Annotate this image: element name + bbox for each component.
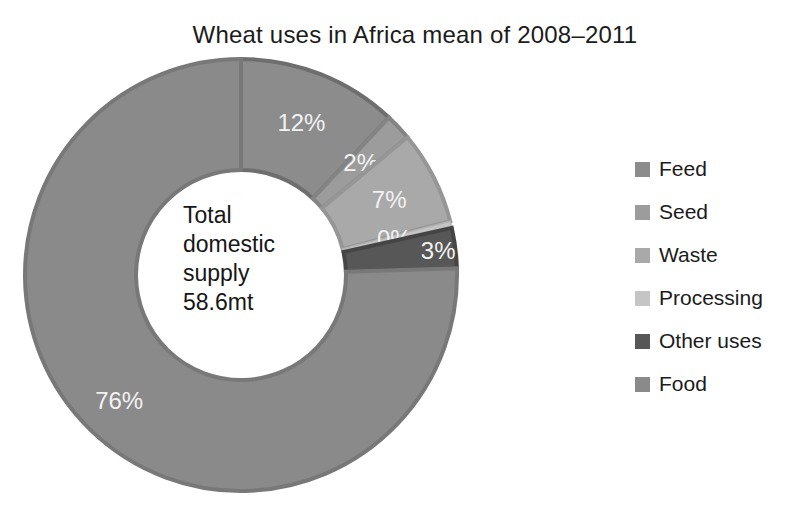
- legend-item-processing: Processing: [635, 286, 763, 310]
- legend-label: Processing: [659, 286, 763, 310]
- legend-label: Feed: [659, 157, 707, 181]
- legend-swatch-other-uses: [635, 334, 650, 349]
- chart-figure: Wheat uses in Africa mean of 2008–2011 1…: [0, 0, 803, 513]
- legend-item-feed: Feed: [635, 157, 763, 181]
- legend-item-seed: Seed: [635, 200, 763, 224]
- slice-label-food: 76%: [95, 387, 143, 414]
- slice-label-feed: 12%: [277, 109, 325, 136]
- legend-swatch-processing: [635, 291, 650, 306]
- legend-label: Seed: [659, 200, 708, 224]
- legend-label: Waste: [659, 243, 718, 267]
- center-text-line: domestic: [183, 230, 275, 259]
- legend-swatch-seed: [635, 205, 650, 220]
- legend-swatch-feed: [635, 162, 650, 177]
- slice-label-waste: 7%: [372, 186, 407, 213]
- center-text-line: 58.6mt: [183, 288, 275, 317]
- legend-label: Food: [659, 372, 707, 396]
- legend-item-food: Food: [635, 372, 763, 396]
- legend-swatch-waste: [635, 248, 650, 263]
- chart-legend: FeedSeedWasteProcessingOther usesFood: [635, 157, 763, 396]
- legend-swatch-food: [635, 377, 650, 392]
- donut-center-text: Total domestic supply 58.6mt: [183, 201, 275, 317]
- center-text-line: Total: [183, 201, 275, 230]
- center-text-line: supply: [183, 259, 275, 288]
- legend-item-waste: Waste: [635, 243, 763, 267]
- legend-label: Other uses: [659, 329, 762, 353]
- legend-item-other-uses: Other uses: [635, 329, 763, 353]
- slice-label-other-uses: 3%: [421, 237, 456, 264]
